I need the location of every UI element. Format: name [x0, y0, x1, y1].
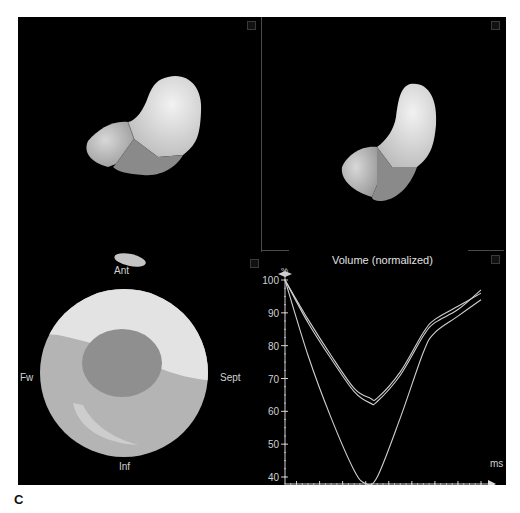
y-unit-label: % — [281, 266, 288, 275]
lv-3d-model-2 — [262, 17, 506, 247]
maximize-panel-button[interactable] — [247, 21, 256, 30]
svg-text:40: 40 — [268, 472, 280, 483]
svg-text:80: 80 — [268, 341, 280, 352]
chart-title: Volume (normalized) — [332, 254, 433, 266]
svg-text:60: 60 — [268, 406, 280, 417]
label-fw: Fw — [20, 372, 33, 383]
lv-3d-model-1 — [18, 17, 258, 247]
maximize-panel-button[interactable] — [491, 21, 500, 30]
maximize-panel-button[interactable] — [491, 255, 500, 264]
viewer-frame: Ant Fw Sept Inf Volume (normalized) % ms… — [18, 17, 506, 485]
bullseye-map — [18, 253, 261, 485]
maximize-panel-button[interactable] — [250, 259, 259, 268]
panel-3d-view-2[interactable] — [262, 17, 506, 247]
label-ant: Ant — [114, 265, 129, 276]
x-unit-label: ms — [490, 458, 503, 469]
volume-curve — [285, 280, 481, 485]
volume-curve — [285, 280, 481, 405]
panel-divider-horizontal — [468, 250, 504, 251]
panel-divider-horizontal — [261, 250, 289, 251]
volume-curve — [285, 280, 481, 401]
panel-volume-chart[interactable]: Volume (normalized) % ms 100200300400500… — [262, 253, 506, 485]
svg-text:70: 70 — [268, 374, 280, 385]
svg-text:90: 90 — [268, 308, 280, 319]
panel-bullseye[interactable]: Ant Fw Sept Inf — [18, 253, 261, 485]
volume-chart-plot: 1002003004005006007008009004050607080901… — [262, 253, 506, 485]
label-inf: Inf — [119, 461, 130, 472]
svg-text:50: 50 — [268, 439, 280, 450]
label-sept: Sept — [220, 372, 241, 383]
panel-3d-view-1[interactable] — [18, 17, 258, 247]
panel-divider-vertical — [261, 17, 262, 252]
svg-text:100: 100 — [262, 275, 279, 286]
figure-label: C — [14, 492, 23, 507]
